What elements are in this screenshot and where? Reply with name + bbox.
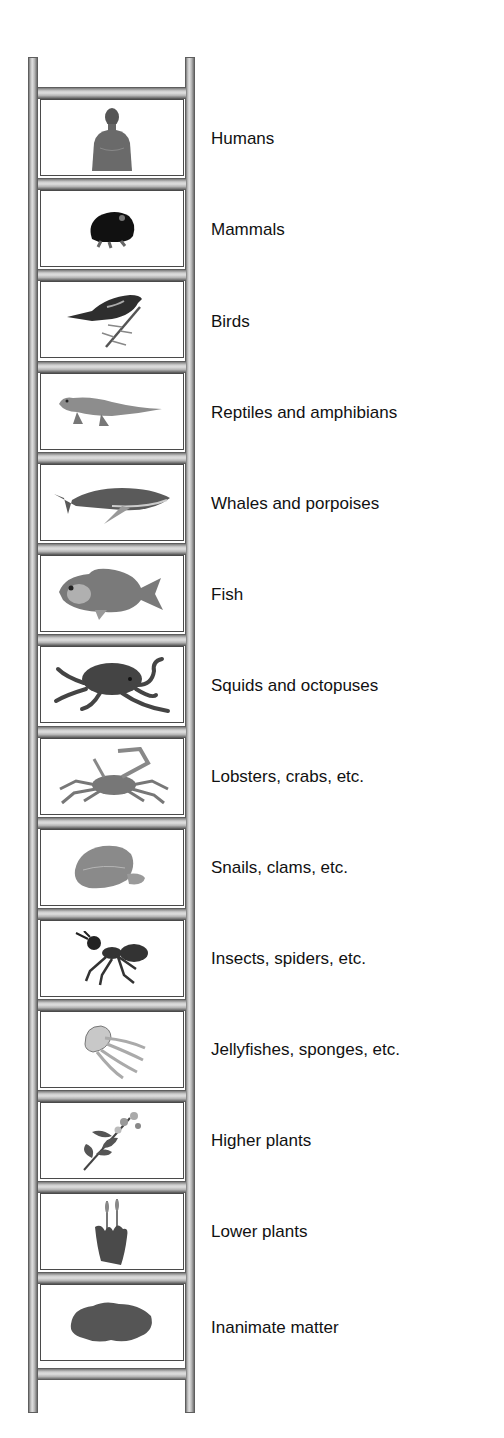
ladder-rung — [38, 452, 186, 464]
jellyfish-icon — [67, 1020, 157, 1080]
panel-jellyfish — [40, 1011, 184, 1088]
ladder-rung — [38, 269, 186, 281]
lizard-icon — [57, 392, 167, 432]
mole-icon — [77, 204, 147, 254]
rock-icon — [67, 1298, 157, 1348]
flowering-plant-icon — [72, 1108, 152, 1173]
ladder-rung — [38, 726, 186, 738]
ladder-rung — [38, 1368, 186, 1380]
panel-lower-plants — [40, 1193, 184, 1270]
ladder-rung — [38, 1181, 186, 1193]
crab-icon — [52, 747, 172, 807]
panel-mammals — [40, 190, 184, 267]
panel-clam — [40, 829, 184, 906]
panel-humans — [40, 99, 184, 176]
rung-label: Fish — [211, 585, 243, 605]
rung-label: Humans — [211, 129, 274, 149]
panel-birds — [40, 281, 184, 358]
human-torso-icon — [82, 103, 142, 173]
ladder-rung — [38, 361, 186, 373]
ladder-left-rail — [28, 57, 38, 1413]
ladder-diagram: Humans Mammals Birds Reptiles and amphib… — [0, 0, 504, 1438]
rung-label: Jellyfishes, sponges, etc. — [211, 1040, 400, 1060]
whale-icon — [52, 478, 172, 528]
panel-whales — [40, 464, 184, 541]
rung-label: Inanimate matter — [211, 1318, 339, 1338]
rung-label: Lobsters, crabs, etc. — [211, 767, 364, 787]
rung-label: Mammals — [211, 220, 285, 240]
ant-icon — [72, 931, 152, 986]
rung-label: Snails, clams, etc. — [211, 858, 348, 878]
fish-icon — [55, 564, 170, 624]
clam-icon — [67, 840, 157, 895]
ladder-rung — [38, 87, 186, 99]
ladder-rung — [38, 634, 186, 646]
ladder-rung — [38, 908, 186, 920]
ladder-rung — [38, 543, 186, 555]
panel-octopus — [40, 646, 184, 723]
ladder-rung — [38, 1272, 186, 1284]
panel-higher-plants — [40, 1102, 184, 1179]
rung-label: Lower plants — [211, 1222, 307, 1242]
ladder-rung — [38, 178, 186, 190]
ladder-rung — [38, 817, 186, 829]
panel-crab — [40, 738, 184, 815]
moss-icon — [87, 1197, 137, 1267]
rung-label: Squids and octopuses — [211, 676, 378, 696]
rung-label: Birds — [211, 312, 250, 332]
octopus-icon — [52, 655, 172, 715]
bird-on-branch-icon — [62, 287, 162, 352]
panel-inanimate — [40, 1284, 184, 1361]
rung-label: Insects, spiders, etc. — [211, 949, 366, 969]
rung-label: Whales and porpoises — [211, 494, 379, 514]
panel-fish — [40, 555, 184, 632]
ladder-rung — [38, 1090, 186, 1102]
rung-label: Higher plants — [211, 1131, 311, 1151]
ladder-right-rail — [185, 57, 195, 1413]
ladder-rung — [38, 999, 186, 1011]
panel-reptiles — [40, 373, 184, 450]
panel-insect — [40, 920, 184, 997]
rung-label: Reptiles and amphibians — [211, 403, 397, 423]
